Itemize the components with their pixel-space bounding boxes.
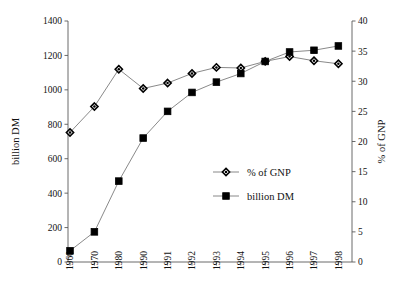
x-axis-tick-label: 1995 xyxy=(261,251,271,270)
data-point-marker-diamond-core xyxy=(337,63,340,65)
line-chart: 0200400600800100012001400051015202530354… xyxy=(0,0,400,304)
y-axis-left-tick-label: 0 xyxy=(57,257,62,267)
y-axis-right-tick-label: 25 xyxy=(358,107,368,117)
data-point-marker-square xyxy=(164,108,171,115)
y-axis-right-tick-label: 40 xyxy=(358,16,368,26)
x-axis-tick-label: 1992 xyxy=(187,251,197,270)
x-axis-tick-label: 1970 xyxy=(90,251,100,270)
data-point-marker-square xyxy=(140,135,147,142)
x-axis-tick-label: 1997 xyxy=(309,251,319,270)
y-axis-right-tick-label: 0 xyxy=(358,257,363,267)
y-axis-left-tick-label: 800 xyxy=(48,120,63,130)
data-point-marker-square xyxy=(115,178,122,185)
data-point-marker-diamond-core xyxy=(118,68,121,71)
y-axis-left-title: billion DM xyxy=(10,117,21,165)
chart-container: 0200400600800100012001400051015202530354… xyxy=(0,0,400,304)
y-axis-left-tick-label: 400 xyxy=(48,189,63,199)
data-point-marker-square xyxy=(286,49,293,56)
y-axis-left-tick-label: 600 xyxy=(48,154,63,164)
x-axis-tick-label: 1990 xyxy=(139,251,149,270)
y-axis-left-tick-label: 200 xyxy=(48,223,63,233)
data-point-marker-square xyxy=(189,89,196,96)
data-point-marker-square xyxy=(335,43,342,50)
data-point-marker-square xyxy=(91,229,98,236)
y-axis-right-title: % of GNP xyxy=(376,119,387,163)
data-point-marker-diamond-core xyxy=(240,67,243,70)
series-line-billion-dm xyxy=(70,46,338,251)
data-point-marker-diamond-core xyxy=(93,105,96,108)
data-point-marker-diamond-core xyxy=(313,60,316,63)
data-point-marker-diamond-core xyxy=(166,82,169,85)
x-axis-tick-label: 1993 xyxy=(212,251,222,270)
x-axis-tick-label: 1994 xyxy=(236,251,246,270)
x-axis-tick-label: 1996 xyxy=(285,251,295,270)
data-point-marker-diamond-core xyxy=(142,87,145,90)
data-point-marker-diamond-core xyxy=(191,72,194,75)
x-axis-tick-label: 1980 xyxy=(114,251,124,270)
x-axis-tick-label: 1991 xyxy=(163,251,173,270)
data-point-marker-square xyxy=(213,79,220,86)
x-axis-tick-label: 1998 xyxy=(334,251,344,270)
data-point-marker-diamond-core xyxy=(69,131,72,134)
legend-marker-diamond-core xyxy=(225,171,228,174)
y-axis-left-tick-label: 1400 xyxy=(43,16,62,26)
series-line--of-gnp xyxy=(70,57,338,133)
y-axis-right-tick-label: 35 xyxy=(358,47,368,57)
legend-item-label-1: billion DM xyxy=(247,191,295,202)
data-point-marker-square xyxy=(311,47,318,54)
legend-marker-square xyxy=(223,193,230,200)
y-axis-right-tick-label: 15 xyxy=(358,167,368,177)
data-point-marker-square xyxy=(262,58,269,65)
y-axis-right-tick-label: 5 xyxy=(358,227,363,237)
y-axis-right-tick-label: 30 xyxy=(358,77,368,87)
data-point-marker-square xyxy=(237,70,244,77)
y-axis-left-tick-label: 1200 xyxy=(43,51,62,61)
data-point-marker-diamond-core xyxy=(215,66,218,69)
y-axis-left-tick-label: 1000 xyxy=(43,85,62,95)
data-point-marker-square xyxy=(67,248,74,255)
y-axis-right-tick-label: 10 xyxy=(358,197,368,207)
y-axis-right-tick-label: 20 xyxy=(358,137,368,147)
legend-item-label-0: % of GNP xyxy=(247,167,291,178)
